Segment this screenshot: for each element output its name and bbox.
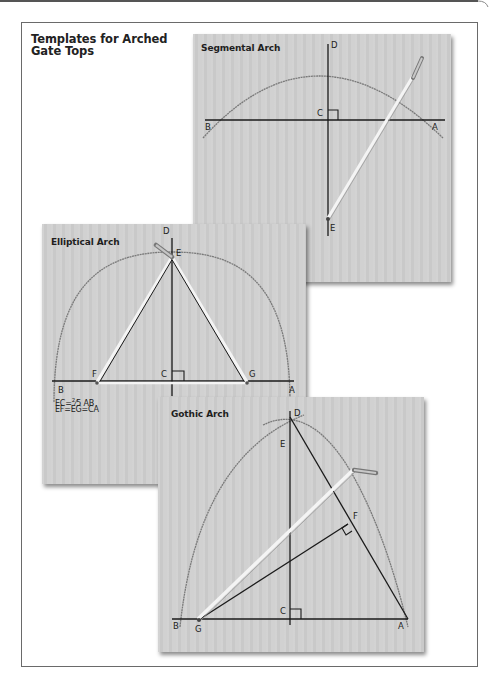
gothic-arc-left xyxy=(180,415,304,627)
gothic-arch-diagram xyxy=(158,397,424,652)
nail-f-icon xyxy=(95,381,99,385)
page-curl-icon xyxy=(478,0,494,8)
line-eg xyxy=(171,258,245,383)
pencil-icon xyxy=(354,470,376,473)
line-gf xyxy=(200,524,348,619)
pencil-icon xyxy=(413,58,422,78)
point-label-c: C xyxy=(161,370,167,379)
string-ef xyxy=(97,257,172,382)
figure-heading: Templates for Arched Gate Tops xyxy=(31,33,167,57)
string-line-shadow xyxy=(200,471,356,621)
right-angle-mark-f xyxy=(342,524,352,535)
point-label-g: G xyxy=(249,370,256,379)
point-label-e: E xyxy=(330,224,335,233)
formula-ef-eg-ca: EF=EG=CA xyxy=(55,405,99,415)
point-label-a: A xyxy=(432,123,438,132)
point-label-d: D xyxy=(163,227,170,236)
point-label-c: C xyxy=(317,109,323,118)
string-eg xyxy=(172,257,247,382)
string-line xyxy=(328,76,413,218)
point-label-f: F xyxy=(92,370,97,379)
pivot-nail-icon xyxy=(197,618,201,622)
string-line xyxy=(198,469,354,619)
line-ef xyxy=(99,258,173,383)
point-label-d: D xyxy=(331,41,338,50)
board-title: Elliptical Arch xyxy=(51,237,120,247)
point-label-a: A xyxy=(398,622,404,631)
string-line-shadow xyxy=(330,77,415,219)
point-label-c: C xyxy=(280,607,286,616)
right-angle-mark xyxy=(328,110,338,120)
point-label-e: E xyxy=(280,440,285,449)
point-label-d: D xyxy=(294,409,301,418)
point-label-b: B xyxy=(173,622,179,631)
line-ea xyxy=(290,417,408,619)
board-title: Segmental Arch xyxy=(201,43,280,53)
right-angle-mark xyxy=(172,371,184,381)
point-label-f: F xyxy=(353,512,358,521)
point-label-a: A xyxy=(289,386,295,395)
pencil-icon xyxy=(156,245,172,257)
board-title: Gothic Arch xyxy=(171,409,229,419)
point-label-b: B xyxy=(58,386,64,395)
gothic-arc-right xyxy=(263,419,408,627)
point-label-e: E xyxy=(176,249,181,258)
point-label-b: B xyxy=(205,123,211,132)
right-angle-mark-c xyxy=(290,609,301,619)
gothic-arch-board: Gothic Arch D E F C B G A xyxy=(158,397,424,652)
pivot-nail-icon xyxy=(326,217,330,221)
top-rule xyxy=(0,0,478,2)
nail-g-icon xyxy=(245,381,249,385)
point-label-g: G xyxy=(195,625,202,634)
